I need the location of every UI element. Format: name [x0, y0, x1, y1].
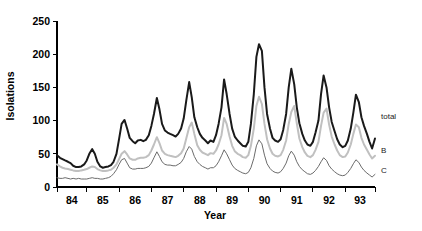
chart-figure: 050100150200250 84858687888990919293 tot… [0, 0, 422, 231]
x-tick-label: 89 [226, 194, 238, 206]
x-tick-label: 93 [354, 194, 366, 206]
y-tick-label: 200 [32, 48, 50, 60]
y-tick-label: 50 [38, 148, 50, 160]
x-tick-label: 91 [291, 194, 303, 206]
x-tick-label: 86 [129, 194, 141, 206]
y-axis-title: Isolations [4, 71, 16, 120]
series-line-C [57, 140, 375, 179]
y-axis: 050100150200250 [32, 15, 57, 193]
x-tick-label: 87 [162, 194, 174, 206]
series-label-total: total [381, 112, 396, 121]
x-axis: 84858687888990919293 [57, 187, 375, 206]
x-tick-label: 84 [66, 194, 78, 206]
x-axis-title: Year [204, 209, 226, 221]
x-tick-label: 92 [323, 194, 335, 206]
y-tick-label: 150 [32, 81, 50, 93]
data-series-group [57, 44, 375, 179]
series-label-C: C [381, 166, 387, 175]
x-tick-label: 88 [194, 194, 206, 206]
x-tick-label: 85 [97, 194, 109, 206]
x-tick-label: 90 [259, 194, 271, 206]
line-chart: 050100150200250 84858687888990919293 tot… [0, 0, 422, 231]
y-tick-label: 0 [44, 181, 50, 193]
series-labels: totalBC [381, 112, 396, 175]
y-tick-label: 250 [32, 15, 50, 27]
series-label-B: B [381, 146, 386, 155]
y-tick-label: 100 [32, 114, 50, 126]
